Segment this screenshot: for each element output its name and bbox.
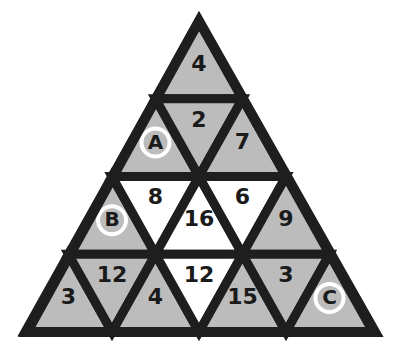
unknown-letter-label: A [148, 130, 164, 154]
cell-number-label: 12 [184, 262, 215, 287]
cell-number-label: 8 [148, 184, 163, 209]
cell-number-label: 4 [148, 284, 163, 309]
cell-number-label: 3 [61, 284, 76, 309]
cell-number-label: 3 [278, 262, 293, 287]
cell-number-label: 6 [235, 184, 250, 209]
triangle-puzzle: 4A27B81669312412153C [0, 0, 395, 356]
unknown-letter-label: C [322, 285, 337, 309]
cell-number-label: 7 [235, 129, 250, 154]
puzzle-cells: 4A27B81669312412153C [25, 21, 373, 332]
cell-number-label: 9 [278, 206, 293, 231]
puzzle-cell-r1-c1: 4 [156, 21, 243, 99]
cell-number-label: 2 [191, 107, 206, 132]
cell-number-label: 4 [191, 51, 206, 76]
unknown-letter-label: B [104, 207, 119, 231]
cell-number-label: 15 [227, 284, 258, 309]
cell-number-label: 16 [184, 206, 215, 231]
cell-number-label: 12 [97, 262, 128, 287]
